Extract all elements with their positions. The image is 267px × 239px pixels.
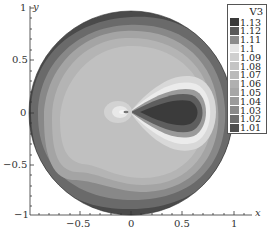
legend-swatch bbox=[230, 88, 239, 96]
x-axis-label: x bbox=[255, 207, 261, 218]
y-tick-label: −1 bbox=[14, 210, 29, 220]
colorbar-legend: V3 1.131.121.111.11.091.081.071.061.051.… bbox=[227, 4, 267, 134]
y-tick-label: 0 bbox=[20, 108, 26, 118]
legend-swatch bbox=[230, 71, 239, 79]
legend-swatch bbox=[230, 27, 239, 35]
legend-swatch bbox=[230, 44, 239, 52]
legend-swatch bbox=[230, 97, 239, 105]
x-tick-label: 0 bbox=[128, 219, 134, 229]
figure-caption bbox=[40, 232, 240, 239]
legend-level-label: 1.01 bbox=[240, 123, 261, 132]
legend-swatch bbox=[230, 106, 239, 114]
legend-swatch bbox=[230, 62, 239, 70]
legend-swatch bbox=[230, 124, 239, 132]
x-tick-label: 0.5 bbox=[174, 219, 190, 229]
y-tick-label: −0.5 bbox=[3, 160, 27, 170]
legend-title: V3 bbox=[228, 6, 266, 17]
y-tick-label: 1 bbox=[20, 3, 26, 13]
legend-swatch bbox=[230, 53, 239, 61]
legend-swatch bbox=[230, 36, 239, 44]
y-tick-label: 0.5 bbox=[12, 55, 28, 65]
x-tick-label: 1 bbox=[231, 219, 237, 229]
y-axis-label: y bbox=[33, 1, 39, 12]
legend-swatch bbox=[230, 115, 239, 123]
legend-swatch bbox=[230, 80, 239, 88]
legend-swatch bbox=[230, 18, 239, 26]
x-tick-label: −0.5 bbox=[66, 219, 90, 229]
